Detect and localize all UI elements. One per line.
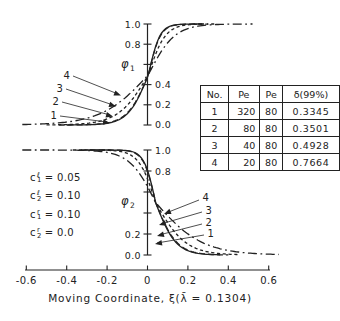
x-axis-title: Moving Coordinate, ξ(λ̄ = 0.1304) [48, 292, 252, 304]
table-header: No. [201, 86, 229, 103]
xtick-label: 0.2 [179, 275, 196, 286]
phi2-curve-labels: 4 3 2 1 [155, 192, 215, 247]
xtick-label: -0.6 [16, 275, 37, 286]
annotation-value: = 0.05 [45, 172, 81, 183]
table-header: Pe [260, 86, 282, 103]
series-label: 4 [64, 70, 71, 81]
ytick-label: 1.0 [125, 19, 141, 30]
parameter-table: No. Pe Pe δ(99%) 1 320 80 0.3345 2 80 80… [200, 85, 340, 171]
annotation-sub: 2 [37, 196, 42, 202]
phi1-axis-label-sub: 1 [130, 64, 135, 73]
table-row: 3 40 80 0.4928 [201, 137, 340, 154]
annotation-symbol: c [30, 227, 36, 238]
series-label: 2 [206, 217, 213, 228]
ytick-label: 0.0 [155, 119, 171, 130]
annotation-sub: 1 [37, 215, 42, 221]
ytick-label: 0.8 [155, 166, 171, 177]
concentration-annotations: cℓ1= 0.05 cℓ2= 0.10 cr1= 0.10 cr2= 0.0 [30, 168, 81, 242]
table-header: Pe [229, 86, 260, 103]
annotation-line: cℓ1= 0.05 [30, 168, 81, 187]
ytick-label: 0.0 [125, 250, 141, 261]
table-cell: 80 [260, 154, 282, 171]
annotation-sub: 1 [37, 178, 42, 184]
figure: 1.0 0.8 0.4 0.2 0.0 φ 1 4 3 2 1 [0, 0, 340, 321]
annotation-value: = 0.10 [45, 190, 81, 201]
xtick-label: -0.4 [56, 275, 77, 286]
table-cell: 80 [260, 103, 282, 120]
table-cell: 0.3501 [282, 120, 339, 137]
ytick-label: 0.8 [125, 39, 141, 50]
xtick-label: 0.4 [220, 275, 237, 286]
table-cell: 80 [260, 137, 282, 154]
arrow-icon [113, 90, 122, 98]
table-row: 4 20 80 0.7664 [201, 154, 340, 171]
table-cell: 0.4928 [282, 137, 339, 154]
annotation-symbol: c [30, 209, 36, 220]
table-header-row: No. Pe Pe δ(99%) [201, 86, 340, 103]
ytick-label: 0.4 [155, 79, 171, 90]
xtick-label: 0.6 [260, 275, 277, 286]
ytick-label: 1.0 [155, 145, 171, 156]
table-header: δ(99%) [282, 86, 339, 103]
series-label: 1 [51, 110, 58, 121]
series-label: 1 [208, 228, 215, 239]
arrow-icon [163, 209, 172, 217]
annotation-line: cℓ2= 0.10 [30, 187, 81, 206]
series-label: 3 [206, 205, 213, 216]
table-cell: 0.7664 [282, 154, 339, 171]
xtick-label: 0 [144, 275, 151, 286]
table-cell: 4 [201, 154, 229, 171]
table-cell: 0.3345 [282, 103, 339, 120]
table-row: 1 320 80 0.3345 [201, 103, 340, 120]
annotation-sub: 2 [37, 233, 42, 239]
x-axis: -0.6 -0.4 -0.2 0 0.2 0.4 0.6 Moving Coor… [16, 266, 278, 305]
table-cell: 80 [260, 120, 282, 137]
annotation-line: cr1= 0.10 [30, 205, 81, 224]
phi2-axis-label-sub: 2 [130, 201, 135, 210]
table-cell: 80 [229, 120, 260, 137]
table-cell: 40 [229, 137, 260, 154]
series-label: 2 [53, 96, 60, 107]
phi2-axis-label: φ [121, 194, 129, 208]
annotation-symbol: c [30, 172, 36, 183]
table-row: 2 80 80 0.3501 [201, 120, 340, 137]
ytick-label: 0.2 [125, 229, 141, 240]
series-label: 3 [57, 83, 64, 94]
annotation-line: cr2= 0.0 [30, 224, 81, 243]
annotation-symbol: c [30, 190, 36, 201]
table-cell: 2 [201, 120, 229, 137]
phi1-axis-label: φ [121, 57, 129, 71]
table-cell: 320 [229, 103, 260, 120]
phi1-axis: 1.0 0.8 0.4 0.2 0.0 φ 1 [121, 19, 171, 131]
xtick-label: -0.2 [97, 275, 118, 286]
annotation-value: = 0.10 [45, 209, 81, 220]
ytick-label: 0.2 [155, 99, 171, 110]
arrow-icon [155, 240, 163, 247]
annotation-value: = 0.0 [45, 227, 74, 238]
table-cell: 3 [201, 137, 229, 154]
series-label: 4 [203, 192, 210, 203]
table-cell: 1 [201, 103, 229, 120]
arrow-icon [156, 231, 164, 238]
table-cell: 20 [229, 154, 260, 171]
